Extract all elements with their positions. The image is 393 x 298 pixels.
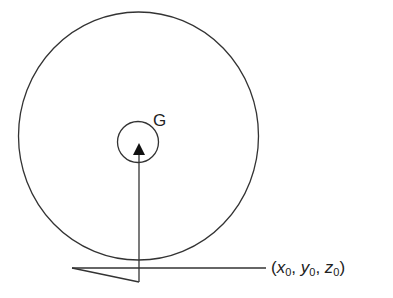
point-label: (x0, y0, z0): [271, 258, 345, 278]
arrowhead-icon: [133, 143, 145, 155]
sep-2: ,: [315, 258, 324, 277]
paren-close: ): [339, 258, 345, 277]
diagram-canvas: G: [0, 0, 393, 298]
coord-y: y: [301, 258, 310, 277]
sep-1: ,: [291, 258, 300, 277]
wedge-line: [72, 268, 139, 282]
coord-x: x: [277, 258, 286, 277]
label-center-of-mass: G: [153, 111, 166, 130]
